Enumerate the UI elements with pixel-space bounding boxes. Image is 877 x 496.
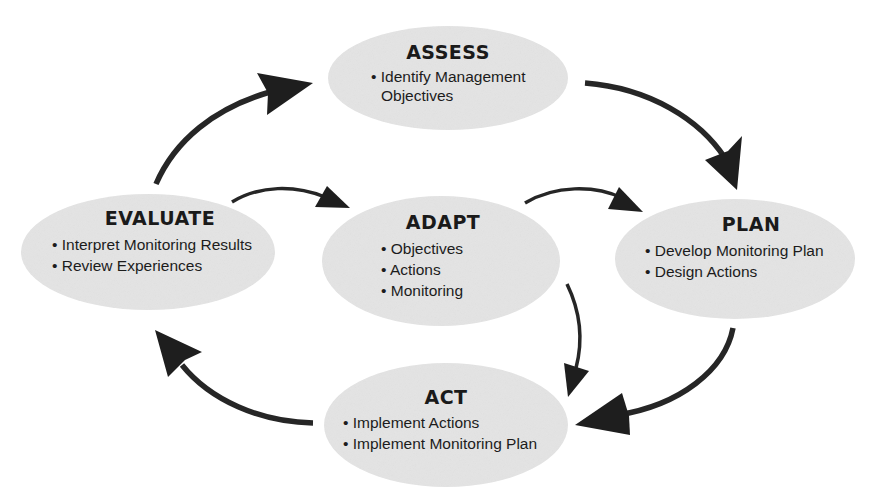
- node-item: • Monitoring: [381, 282, 463, 299]
- arrow-adapt-to-act: [564, 284, 589, 397]
- node-evaluate: EVALUATE • Interpret Monitoring Results …: [21, 194, 275, 310]
- node-item: • Design Actions: [645, 263, 758, 280]
- arrow-shaft: [585, 83, 725, 158]
- node-adapt: ADAPT • Objectives • Actions • Monitorin…: [322, 196, 560, 326]
- arrow-act-to-evaluate: [155, 330, 313, 423]
- node-item: • Implement Monitoring Plan: [343, 435, 537, 452]
- node-item: • Interpret Monitoring Results: [52, 236, 252, 253]
- node-title: ASSESS: [406, 41, 490, 63]
- node-item: • Objectives: [381, 240, 463, 257]
- arrow-adapt-to-plan: [525, 187, 643, 212]
- arrowhead-icon: [705, 136, 742, 190]
- node-title: ACT: [424, 386, 467, 408]
- node-item: • Implement Actions: [343, 414, 480, 431]
- arrow-shaft: [525, 189, 622, 203]
- node-item: • Develop Monitoring Plan: [645, 242, 824, 259]
- node-item: • Review Experiences: [52, 257, 202, 274]
- arrow-evaluate-to-adapt: [232, 186, 350, 208]
- arrow-shaft: [618, 328, 733, 415]
- arrow-shaft: [567, 284, 580, 368]
- node-act: ACT • Implement Actions • Implement Moni…: [324, 363, 568, 487]
- arrow-shaft: [182, 365, 313, 423]
- arrowhead-icon: [564, 363, 589, 397]
- arrowhead-icon: [608, 187, 643, 212]
- node-title: PLAN: [722, 213, 781, 235]
- arrowhead-icon: [155, 330, 202, 377]
- arrow-shaft: [156, 92, 270, 184]
- arrow-shaft: [232, 189, 325, 202]
- node-title: EVALUATE: [105, 207, 216, 229]
- node-item: • Identify Management: [371, 68, 526, 85]
- node-assess: ASSESS • Identify Management Objectives: [328, 26, 568, 130]
- arrow-evaluate-to-assess: [156, 73, 313, 184]
- node-title: ADAPT: [406, 211, 481, 233]
- arrow-plan-to-act: [575, 328, 733, 435]
- arrowhead-icon: [575, 393, 630, 435]
- node-item: • Actions: [381, 261, 441, 278]
- node-plan: PLAN • Develop Monitoring Plan • Design …: [615, 199, 855, 319]
- node-item: Objectives: [381, 87, 454, 104]
- adaptive-management-diagram: ASSESS • Identify Management Objectives …: [0, 0, 877, 496]
- arrow-assess-to-plan: [585, 83, 742, 190]
- nodes: ASSESS • Identify Management Objectives …: [21, 26, 855, 487]
